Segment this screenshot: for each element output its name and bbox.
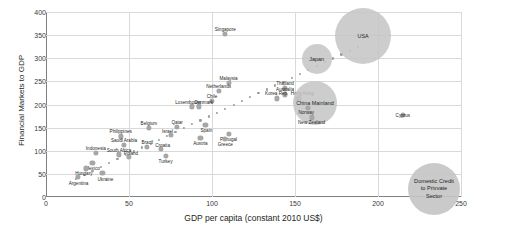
data-point-label: Austria — [193, 140, 207, 145]
data-point-label: Malaysia — [220, 75, 238, 80]
data-point-label: Greece — [218, 141, 233, 146]
y-tick-label: 200 — [6, 101, 46, 108]
y-tick-label: 300 — [6, 55, 46, 62]
x-axis-label: GDP per capita (constant 2010 US$) — [46, 213, 461, 223]
y-tick-label: 50 — [6, 170, 46, 177]
gridline-horizontal — [46, 58, 461, 59]
x-tick-label: 50 — [114, 200, 144, 207]
gridline-horizontal — [46, 128, 461, 129]
data-point-label: Spain — [200, 127, 212, 132]
y-axis-label: Financial Markets to GDP — [17, 16, 26, 186]
size-legend-label: Domestic Credit to Privvate Sector — [412, 178, 456, 200]
x-tick-label: 150 — [280, 200, 310, 207]
data-point-label: China Mainland — [296, 100, 333, 106]
data-point-label: Indonesia — [86, 145, 106, 150]
data-point-label: Turkey — [159, 159, 173, 164]
data-point-label: Philippines — [110, 129, 132, 134]
data-point-label: Denmark — [194, 100, 213, 105]
gridline-horizontal — [46, 12, 461, 13]
data-point-label: Korea Rep. — [265, 91, 288, 96]
gridline-horizontal — [46, 81, 461, 82]
data-point-label: Netherlands — [206, 83, 231, 88]
data-point-label: Chile — [207, 94, 217, 99]
data-point-label: Poland — [124, 151, 138, 156]
data-point-label: Argentina — [69, 180, 89, 185]
gridline-vertical — [461, 12, 462, 197]
data-point-label: Croatia — [155, 142, 170, 147]
x-tick-label: 200 — [363, 200, 393, 207]
data-point-label: Cyprus — [396, 113, 411, 118]
y-tick-label: 150 — [6, 124, 46, 131]
data-point-label: USA — [358, 33, 369, 39]
data-point-label: Ukraine — [98, 176, 114, 181]
data-point-label: Brazil — [142, 140, 154, 145]
x-tick-label: 0 — [31, 200, 61, 207]
gridline-horizontal — [46, 35, 461, 36]
data-point-label: New Zealand — [298, 120, 325, 125]
gridline-horizontal — [46, 174, 461, 175]
x-tick-label: 100 — [197, 200, 227, 207]
data-point-label: Japan — [309, 56, 324, 62]
y-tick-label: 100 — [6, 147, 46, 154]
y-tick-label: 400 — [6, 9, 46, 16]
data-point-label: Qatar — [171, 119, 183, 124]
data-point-label: Thailand — [276, 81, 294, 86]
gridline-horizontal — [46, 105, 461, 106]
y-tick-label: 250 — [6, 78, 46, 85]
data-point-label: Saudi Arabia — [111, 137, 137, 142]
y-tick-label: 350 — [6, 32, 46, 39]
data-point-label: Belgium — [141, 120, 158, 125]
data-point-label: Israel — [162, 128, 173, 133]
data-point-label: Singapore — [215, 27, 236, 32]
bubble-chart: 050100150200250300350400 050100150200250… — [0, 0, 509, 250]
